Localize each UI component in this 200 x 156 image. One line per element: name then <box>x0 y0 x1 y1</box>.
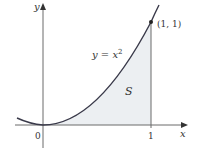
y-axis-label: y <box>33 1 40 12</box>
x-tick-label: 1 <box>148 131 154 141</box>
origin-label: 0 <box>35 131 41 141</box>
point-label: (1, 1) <box>157 19 181 29</box>
region-s <box>43 22 151 125</box>
x-axis-label: x <box>180 128 186 139</box>
curve-label-exponent: 2 <box>118 48 122 56</box>
parabola-area-diagram: y x 0 1 (1, 1) y = x2 S <box>0 0 200 156</box>
curve-label: y = x2 <box>91 48 123 60</box>
y-axis-arrow-icon <box>40 3 46 10</box>
curve-label-lhs: y = x <box>91 49 118 60</box>
point-1-1 <box>149 20 153 24</box>
region-label: S <box>125 85 133 98</box>
